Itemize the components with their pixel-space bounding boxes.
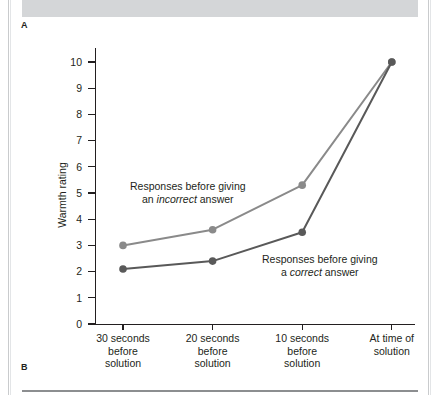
- annotation-incorrect-line2-prefix: an: [142, 193, 157, 205]
- line-chart: Warmth rating 012345678910 30 secondsbef…: [0, 0, 437, 395]
- data-point-marker: [388, 58, 396, 66]
- bottom-divider: [22, 390, 418, 392]
- annotation-correct-line2-prefix: a: [281, 266, 290, 278]
- annotation-correct-line1: Responses before giving: [262, 253, 378, 265]
- annotation-incorrect-line2-suffix: answer: [197, 193, 234, 205]
- annotation-incorrect-emphasis: incorrect: [157, 193, 197, 205]
- data-point-marker: [119, 265, 127, 273]
- figure-page: A Warmth rating 012345678910 30 secondsb…: [0, 0, 437, 395]
- annotation-correct-line2-suffix: answer: [322, 266, 359, 278]
- annotation-correct-series: Responses before giving a correct answer: [262, 253, 378, 279]
- data-point-marker: [209, 226, 217, 234]
- annotation-incorrect-series: Responses before giving an incorrect ans…: [130, 180, 246, 206]
- data-point-marker: [209, 257, 217, 265]
- annotation-correct-emphasis: correct: [290, 266, 322, 278]
- annotation-incorrect-line1: Responses before giving: [130, 180, 246, 192]
- series-line-0: [123, 62, 392, 245]
- data-point-marker: [119, 242, 127, 250]
- data-point-marker: [298, 181, 306, 189]
- panel-label-b: B: [21, 362, 28, 372]
- data-point-marker: [298, 229, 306, 237]
